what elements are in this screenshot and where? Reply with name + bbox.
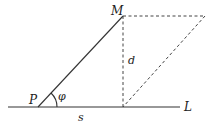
label-d: d <box>128 54 135 67</box>
label-phi: φ <box>58 90 66 103</box>
parallel-diagonal-line <box>123 16 205 107</box>
label-m: M <box>110 4 124 18</box>
label-l: L <box>183 100 192 114</box>
geometry-diagram: M P L d s φ <box>0 0 212 130</box>
label-p: P <box>28 93 38 107</box>
angle-arc-phi <box>51 93 57 107</box>
label-s: s <box>78 111 84 124</box>
